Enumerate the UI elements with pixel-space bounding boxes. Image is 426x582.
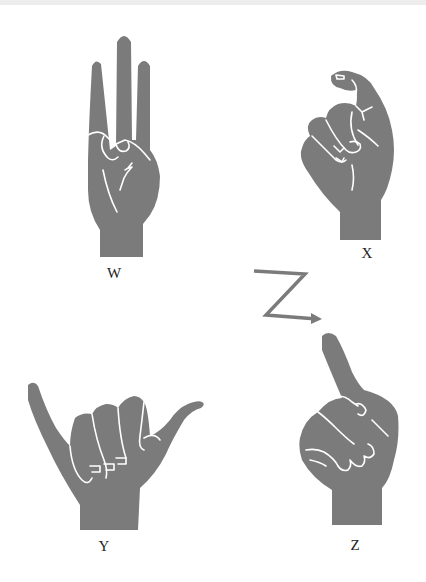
hand-z-illustration [0,0,426,582]
sign-z: Z [0,0,426,582]
letter-label-z: Z [340,537,370,554]
